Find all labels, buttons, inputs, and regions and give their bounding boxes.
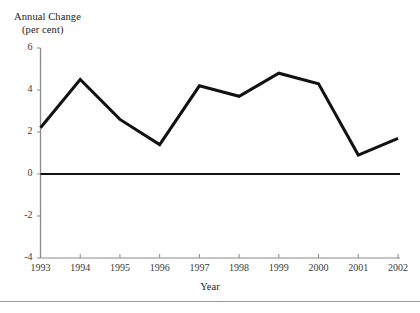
y-axis: [37, 48, 41, 258]
x-axis-title: Year: [0, 281, 420, 292]
x-axis: [41, 254, 401, 258]
y-tick-label: -4: [11, 251, 33, 262]
y-tick-label: 4: [11, 83, 33, 94]
y-tick-label: 6: [11, 41, 33, 52]
x-tick-label: 2002: [375, 262, 420, 273]
annual-change-line-chart: Annual Change (per cent) 6420-2-4 199319…: [0, 0, 420, 313]
y-tick-label: -2: [11, 209, 33, 220]
footer-divider: [0, 301, 420, 302]
y-tick-label: 0: [11, 167, 33, 178]
data-series: [41, 73, 399, 155]
y-tick-label: 2: [11, 125, 33, 136]
